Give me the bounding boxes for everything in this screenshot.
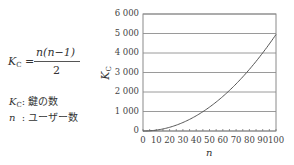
y-tick-label: 6 000 [103,8,139,18]
y-axis-label-subscript: C [105,66,113,71]
y-axis-label: KC [99,66,113,80]
x-tick-label: 100 [266,135,286,145]
x-axis-label: n [206,147,212,158]
y-tick-label: 2 000 [103,86,139,96]
y-tick-label: 5 000 [103,28,139,38]
y-tick-label: 0 [103,125,139,135]
y-tick-label: 1 000 [103,106,139,116]
y-tick-label: 4 000 [103,47,139,57]
y-axis-label-symbol: K [99,72,112,80]
data-curve [143,34,276,131]
